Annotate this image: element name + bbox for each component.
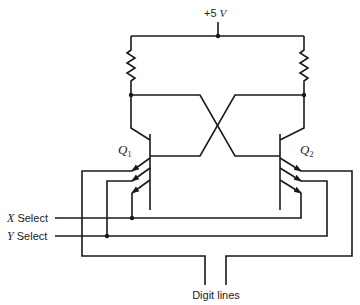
q1-label: Q1	[118, 142, 131, 159]
q1-y-emitter-wire	[107, 181, 132, 236]
digit-lines-label: Digit lines	[192, 289, 240, 301]
resistor-left-icon	[127, 36, 135, 95]
y-select-label: Y Select	[7, 229, 47, 243]
cross-coupling	[131, 95, 304, 156]
resistor-right-icon	[300, 36, 308, 95]
digit-line-left	[82, 171, 205, 285]
supply-label: +5 V	[204, 7, 228, 19]
digit-line-right	[226, 171, 352, 285]
x-select-label: X Select	[6, 211, 48, 225]
transistor-q1-icon	[131, 95, 150, 210]
circuit-diagram: +5 V Q1 Q2	[0, 0, 360, 305]
q2-x-emitter-wire	[132, 193, 301, 218]
q2-label: Q2	[300, 142, 313, 159]
